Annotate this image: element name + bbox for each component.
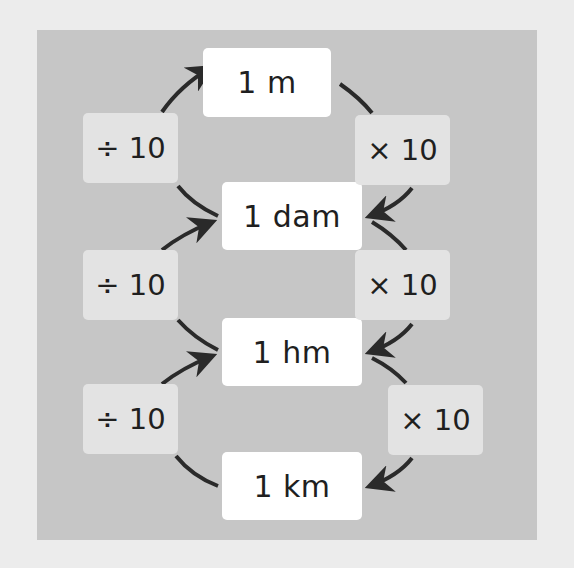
- divide-label: ÷ 10: [95, 131, 165, 165]
- divide-by-10-box-2: ÷ 10: [83, 250, 178, 320]
- divide-label: ÷ 10: [95, 268, 165, 302]
- unit-label-km: 1 km: [253, 469, 330, 504]
- unit-box-dam: 1 dam: [222, 182, 362, 250]
- arc-left-1: [178, 186, 218, 216]
- multiply-by-10-box-2: × 10: [355, 250, 450, 320]
- multiply-by-10-box-3: × 10: [388, 385, 483, 455]
- arc-left-3: [176, 456, 218, 486]
- multiply-label: × 10: [400, 403, 470, 437]
- arrow-down-m-to-dam: [370, 188, 412, 216]
- arc-left-2: [178, 320, 218, 350]
- divide-label: ÷ 10: [95, 402, 165, 436]
- unit-box-m: 1 m: [203, 48, 331, 117]
- unit-label-dam: 1 dam: [243, 199, 341, 234]
- arrow-up-km-to-hm: [162, 356, 212, 384]
- unit-box-km: 1 km: [222, 452, 362, 520]
- arrow-down-dam-to-hm: [370, 324, 412, 352]
- arc-right-1: [372, 222, 406, 250]
- divide-by-10-box-1: ÷ 10: [83, 113, 178, 183]
- multiply-by-10-box-1: × 10: [355, 115, 450, 185]
- multiply-label: × 10: [367, 268, 437, 302]
- arc-right-0: [340, 84, 372, 113]
- arrow-down-m-to-dam: [367, 186, 376, 205]
- arrow-up-hm-to-dam: [162, 222, 212, 250]
- unit-box-hm: 1 hm: [222, 318, 362, 386]
- arrow-down-hm-to-km: [370, 458, 412, 486]
- arc-right-2: [372, 358, 406, 383]
- divide-by-10-box-3: ÷ 10: [83, 384, 178, 454]
- multiply-label: × 10: [367, 133, 437, 167]
- unit-label-hm: 1 hm: [253, 335, 332, 370]
- unit-label-m: 1 m: [237, 65, 296, 100]
